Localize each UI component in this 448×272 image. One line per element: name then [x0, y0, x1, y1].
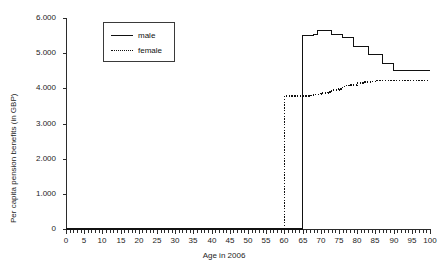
- plot-area: [0, 0, 448, 272]
- legend-swatch-male-icon: [111, 31, 133, 40]
- legend-item-male: male: [111, 31, 155, 40]
- legend-label-male: male: [138, 32, 155, 40]
- series-line-female: [66, 80, 430, 229]
- pension-benefits-chart: Per capita pension benefits (in GBP) 01.…: [0, 0, 448, 272]
- legend-item-female: female: [111, 46, 162, 55]
- legend-label-female: female: [138, 47, 162, 55]
- legend: male female: [103, 22, 175, 62]
- legend-swatch-female-icon: [111, 46, 133, 55]
- x-axis-title: Age in 2006: [0, 251, 448, 260]
